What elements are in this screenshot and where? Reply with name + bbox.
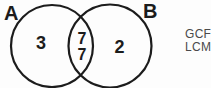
venn-diagram: A B 3 7 7 2 (0, 0, 211, 88)
intersection-value-bottom: 7 (78, 46, 87, 63)
set-a-only-value: 3 (36, 33, 46, 53)
venn-diagram-figure: A B 3 7 7 2 GCF LCM (0, 0, 211, 88)
set-b-only-value: 2 (114, 37, 124, 57)
intersection-value-top: 7 (78, 30, 87, 47)
set-b-label: B (143, 0, 157, 22)
side-note: GCF LCM (185, 28, 211, 54)
side-note-line2: LCM (185, 41, 211, 54)
set-a-label: A (4, 2, 18, 24)
